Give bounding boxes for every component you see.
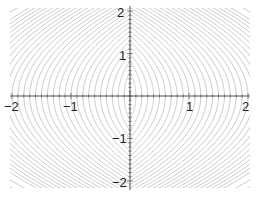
x-tick-label: 2 (242, 99, 249, 114)
y-tick-label: −1 (112, 131, 127, 146)
y-tick-label: 2 (117, 5, 124, 20)
y-ticks (127, 11, 133, 181)
axes (10, 6, 250, 190)
contour-plot: −2 −1 1 2 2 1 −1 −2 (0, 0, 259, 197)
y-tick-label: −2 (112, 175, 127, 190)
x-tick-label: −1 (63, 99, 78, 114)
y-tick-label: 1 (119, 48, 126, 63)
x-tick-label: 1 (186, 99, 193, 114)
x-tick-label: −2 (4, 99, 19, 114)
